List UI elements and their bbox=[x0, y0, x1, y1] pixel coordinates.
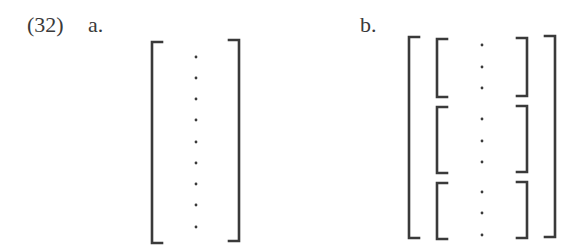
dots-b bbox=[481, 44, 484, 237]
inner-right-bracket bbox=[517, 38, 527, 96]
bracket-diagrams bbox=[0, 0, 581, 249]
inner-group-3 bbox=[437, 182, 527, 239]
right-bracket bbox=[229, 40, 239, 241]
left-bracket bbox=[152, 42, 162, 243]
inner-left-bracket bbox=[437, 107, 447, 173]
dots-a bbox=[195, 56, 198, 229]
inner-right-bracket bbox=[517, 106, 527, 172]
inner-left-bracket bbox=[437, 183, 447, 239]
inner-right-bracket bbox=[517, 182, 527, 238]
inner-left-bracket bbox=[437, 39, 447, 97]
outer-right-bracket bbox=[545, 36, 555, 237]
outer-left-bracket bbox=[409, 37, 419, 238]
